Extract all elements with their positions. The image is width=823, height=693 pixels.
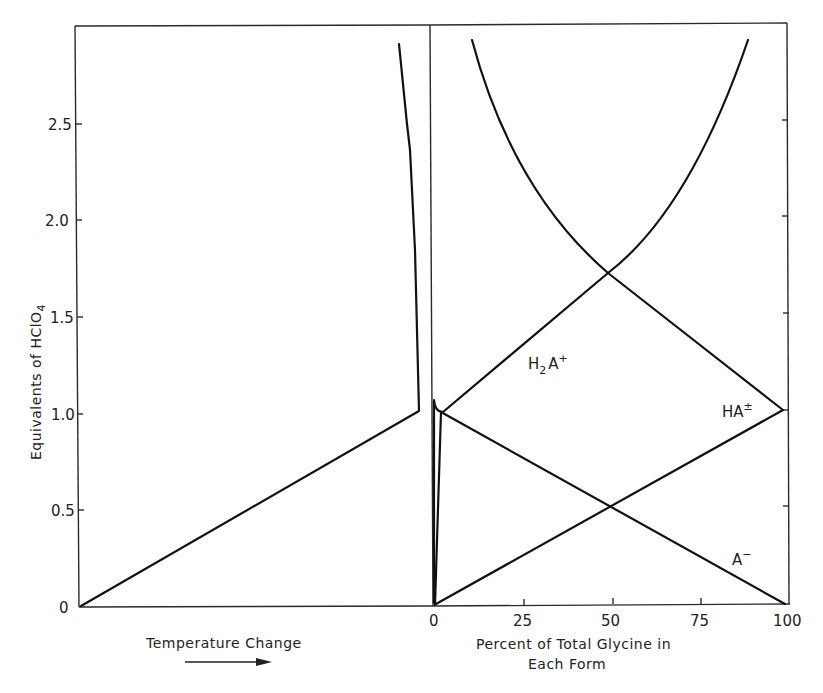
y-axis-label: Equivalents of HClO4 bbox=[28, 304, 48, 460]
left-x-axis-label: Temperature Change bbox=[145, 635, 302, 651]
right-x-axis-label-line2: Each Form bbox=[528, 656, 606, 672]
y-tick-label: 2.5 bbox=[48, 116, 72, 134]
x-tick-label: 0 bbox=[429, 612, 439, 630]
right-x-axis-label-line1: Percent of Total Glycine in bbox=[476, 636, 671, 652]
right-arrow-icon bbox=[185, 658, 272, 666]
ha-zwitterion-label: HA± bbox=[722, 400, 753, 421]
x-tick-label: 100 bbox=[773, 612, 802, 630]
y-tick-label: 1.5 bbox=[50, 309, 74, 327]
left-panel-top-border bbox=[75, 25, 430, 26]
y-tick-label: 2.0 bbox=[45, 212, 69, 230]
y-tick-label: 0.5 bbox=[51, 502, 75, 520]
temperature-change-curve bbox=[81, 44, 419, 606]
y-tick-label: 0 bbox=[59, 599, 69, 617]
right-x-axis bbox=[432, 604, 790, 606]
x-tick-label: 75 bbox=[690, 612, 709, 630]
left-x-axis bbox=[79, 606, 432, 607]
h2a-plus-label: H2A+ bbox=[528, 352, 568, 377]
left-panel: 2.5 2.0 1.5 1.0 0.5 0 Equivalents of HCl… bbox=[28, 25, 432, 666]
ha-zwitterion-curve bbox=[436, 40, 783, 604]
right-panel-top-border bbox=[430, 23, 787, 25]
divider-axis bbox=[430, 25, 433, 606]
glycine-titration-figure: 2.5 2.0 1.5 1.0 0.5 0 Equivalents of HCl… bbox=[0, 0, 823, 693]
a-minus-label: A− bbox=[732, 548, 751, 569]
x-tick-label: 25 bbox=[513, 612, 532, 630]
y-tick-label: 1.0 bbox=[51, 406, 75, 424]
right-panel: 0 25 50 75 100 Percent of Total Glycine … bbox=[429, 23, 802, 672]
x-tick-label: 50 bbox=[601, 612, 620, 630]
